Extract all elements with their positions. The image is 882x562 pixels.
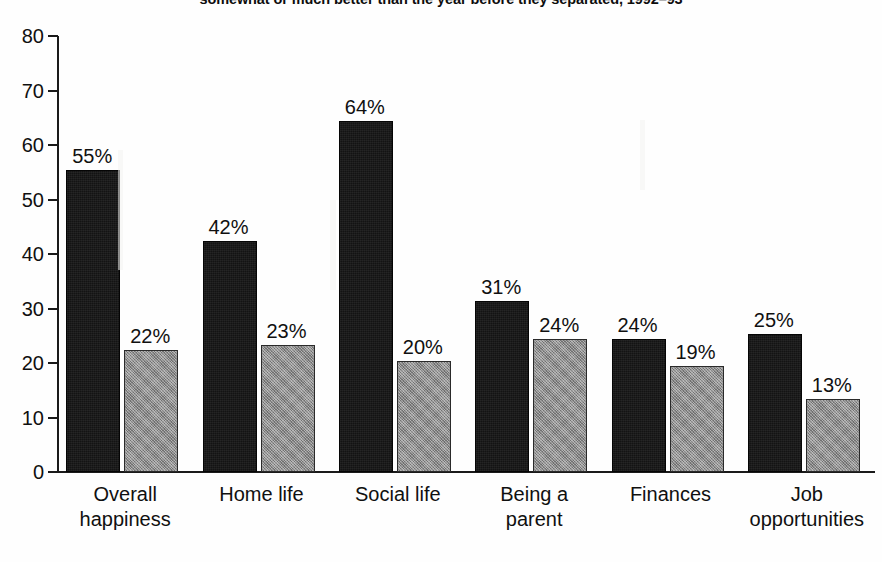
y-axis-tick (48, 35, 58, 37)
bar-value-label: 23% (251, 321, 323, 341)
bar (806, 399, 860, 472)
bar-value-label: 42% (193, 217, 265, 237)
y-axis-tick-label: 50 (0, 190, 44, 210)
bar-chart: somewhat or much better than the year be… (0, 0, 882, 562)
plot-area (57, 36, 875, 472)
y-axis-tick-label: 60 (0, 135, 44, 155)
y-axis-tick (48, 417, 58, 419)
bar-value-label: 25% (738, 310, 810, 330)
y-axis-tick-label: 20 (0, 353, 44, 373)
bar-value-label: 13% (796, 375, 868, 395)
bar (397, 361, 451, 472)
bar (612, 339, 666, 472)
bar (124, 350, 178, 472)
bar-value-label: 31% (465, 277, 537, 297)
bar-value-label: 64% (329, 97, 401, 117)
y-axis-tick-label: 30 (0, 299, 44, 319)
chart-title: somewhat or much better than the year be… (0, 0, 882, 7)
bar (670, 366, 724, 472)
bar (533, 339, 587, 472)
x-axis-category-label: Job opportunities (721, 482, 882, 532)
bar-value-label: 24% (523, 315, 595, 335)
bar (339, 121, 393, 472)
y-axis-tick (48, 471, 58, 473)
y-axis-tick-label: 40 (0, 244, 44, 264)
bar (475, 301, 529, 472)
y-axis-tick-label: 10 (0, 408, 44, 428)
y-axis-tick (48, 308, 58, 310)
y-axis-tick-label: 80 (0, 26, 44, 46)
bar (66, 170, 120, 472)
bar (748, 334, 802, 472)
bar-value-label: 24% (602, 315, 674, 335)
y-axis-tick (48, 253, 58, 255)
y-axis-tick (48, 362, 58, 364)
bar (261, 345, 315, 472)
y-axis-tick-label: 70 (0, 81, 44, 101)
y-axis-tick (48, 199, 58, 201)
y-axis-tick-label: 0 (0, 462, 44, 482)
bar-value-label: 20% (387, 337, 459, 357)
y-axis-tick (48, 90, 58, 92)
bar-value-label: 22% (114, 326, 186, 346)
bar-value-label: 55% (56, 146, 128, 166)
bar (203, 241, 257, 472)
bar-value-label: 19% (660, 342, 732, 362)
